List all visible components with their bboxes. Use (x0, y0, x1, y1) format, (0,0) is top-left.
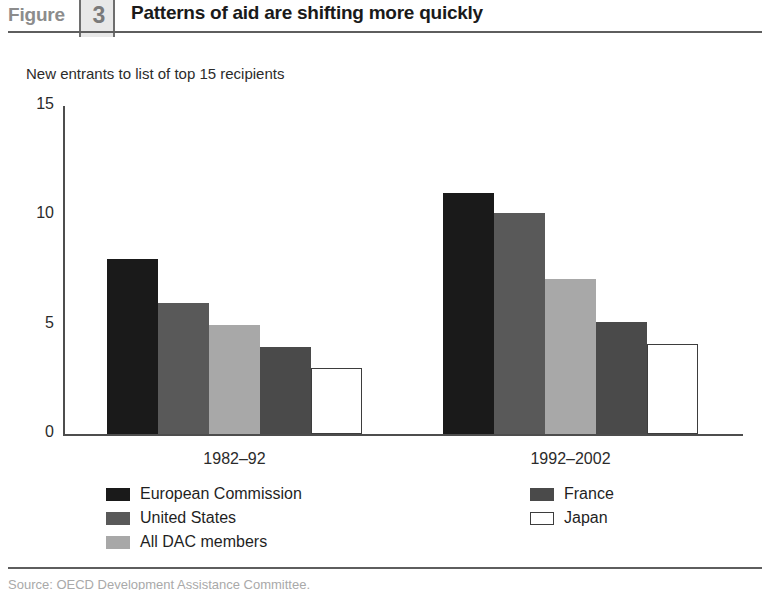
legend-swatch-icon (106, 536, 130, 549)
bar (158, 303, 209, 434)
y-tick-label: 0 (8, 423, 54, 441)
bar (107, 259, 158, 434)
y-axis-line (63, 106, 65, 436)
source-note: Source: OECD Development Assistance Comm… (8, 577, 310, 590)
legend-swatch-icon (530, 488, 554, 501)
legend-item[interactable]: France (530, 483, 614, 505)
bar (209, 325, 260, 434)
legend-swatch-icon (106, 512, 130, 525)
bar (545, 279, 596, 434)
y-tick-label: 5 (8, 314, 54, 332)
bar (311, 368, 362, 434)
legend-swatch-icon (106, 488, 130, 501)
legend-item[interactable]: United States (106, 507, 302, 529)
x-tick-label: 1992–2002 (403, 450, 738, 468)
legend-column-left: European CommissionUnited StatesAll DAC … (106, 483, 302, 555)
legend-label: Japan (564, 509, 608, 527)
legend-swatch-icon (530, 512, 554, 525)
bar (596, 322, 647, 434)
footer-divider (8, 567, 762, 569)
x-tick-label: 1982–92 (67, 450, 402, 468)
bar-group (443, 106, 698, 434)
y-tick-label: 10 (8, 204, 54, 222)
bar (494, 213, 545, 434)
bar (443, 193, 494, 434)
legend-label: All DAC members (140, 533, 267, 551)
x-axis-line (63, 434, 743, 436)
bar (260, 347, 311, 434)
legend-item[interactable]: All DAC members (106, 531, 302, 553)
legend-item[interactable]: European Commission (106, 483, 302, 505)
legend-column-right: FranceJapan (530, 483, 614, 531)
legend-label: United States (140, 509, 236, 527)
bar-group (107, 106, 362, 434)
y-tick-label: 15 (8, 95, 54, 113)
legend-label: France (564, 485, 614, 503)
legend-label: European Commission (140, 485, 302, 503)
legend-item[interactable]: Japan (530, 507, 614, 529)
bar (647, 344, 698, 434)
